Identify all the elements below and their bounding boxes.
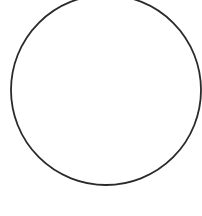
canvas <box>0 0 202 216</box>
circle-outline <box>11 0 201 185</box>
